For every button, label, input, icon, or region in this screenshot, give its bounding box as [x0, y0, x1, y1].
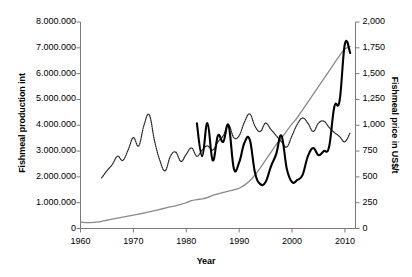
fishmeal-chart-figure: Fishmeal production int Fishmeal price i…	[0, 0, 412, 277]
axis-spines	[81, 22, 356, 229]
series-line-price-dotted	[102, 114, 351, 178]
series-line-price-solid	[197, 41, 350, 185]
axis-tickmarks	[77, 22, 360, 233]
series-line-production	[81, 47, 351, 223]
data-series-layer	[81, 41, 351, 223]
plot-area	[0, 0, 412, 277]
